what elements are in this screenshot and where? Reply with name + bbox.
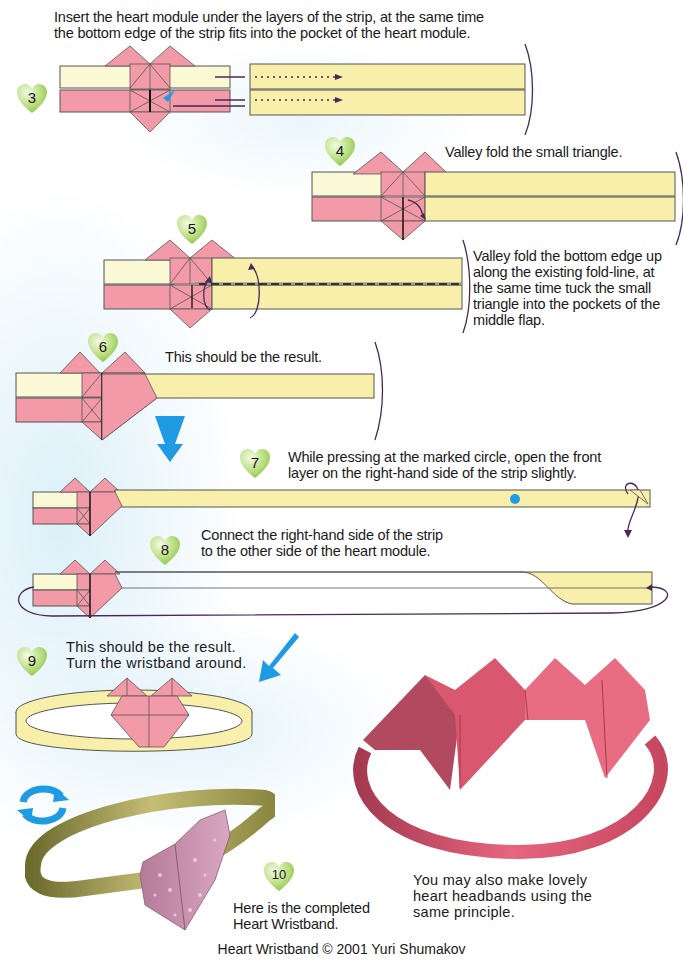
step-10-instructions: Here is the completed Heart Wristband. xyxy=(233,900,370,932)
step-4-diagram xyxy=(308,150,683,245)
down-arrow-icon xyxy=(153,414,187,464)
step-3-instructions: Insert the heart module under the layers… xyxy=(54,9,524,41)
step-9-instructions: This should be the result. Turn the wris… xyxy=(66,639,247,671)
page-footer: Heart Wristband © 2001 Yuri Shumakov xyxy=(0,941,683,957)
step-3-badge: 3 xyxy=(15,82,49,114)
step-5-diagram xyxy=(100,238,475,333)
step-3-diagram xyxy=(55,40,545,135)
step-9-diagram xyxy=(14,672,264,772)
heart-headband-photo xyxy=(345,640,675,865)
step-10-badge: 10 xyxy=(262,860,296,892)
headband-note: You may also make lovely heart headbands… xyxy=(413,872,613,920)
step-5-instructions: Valley fold the bottom edge up along the… xyxy=(473,248,678,328)
step-8-diagram xyxy=(12,560,682,625)
step-6-diagram xyxy=(12,340,387,445)
step-8-instructions: Connect the right-hand side of the strip… xyxy=(201,527,443,559)
